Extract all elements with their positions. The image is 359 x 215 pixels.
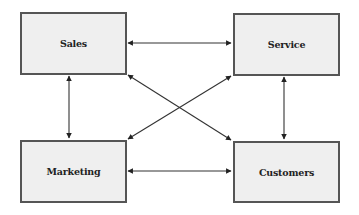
relationship-diagram: Sales Service Marketing Customers	[0, 0, 359, 215]
node-marketing: Marketing	[20, 140, 127, 203]
node-label-service: Service	[268, 39, 305, 50]
node-sales: Sales	[20, 12, 127, 75]
node-label-customers: Customers	[259, 167, 314, 178]
node-label-sales: Sales	[60, 38, 87, 49]
node-label-marketing: Marketing	[46, 166, 100, 177]
node-service: Service	[233, 13, 340, 76]
arrow-service-marketing	[128, 76, 231, 139]
node-customers: Customers	[233, 141, 340, 203]
